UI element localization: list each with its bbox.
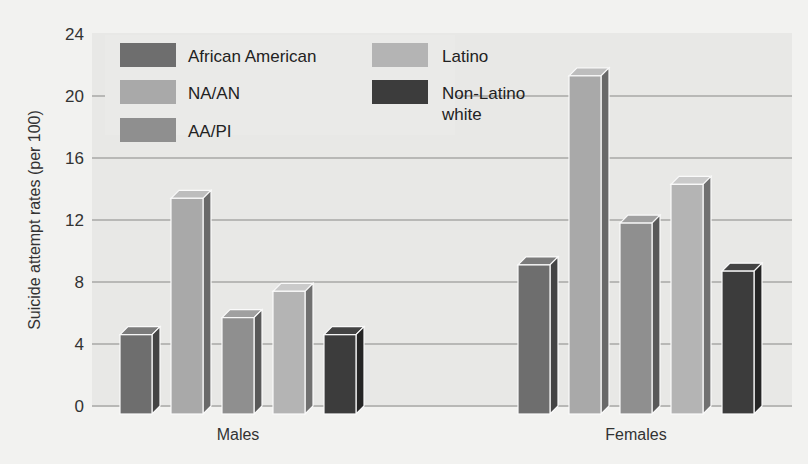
legend-swatch-african-american bbox=[120, 43, 176, 67]
y-tick-label: 4 bbox=[75, 335, 84, 354]
legend-label-latino: Latino bbox=[442, 47, 488, 66]
bar bbox=[722, 263, 762, 414]
legend-label-na-an: NA/AN bbox=[188, 84, 240, 103]
x-axis-categories: MalesFemales bbox=[217, 426, 667, 443]
bar bbox=[120, 327, 160, 414]
bar bbox=[273, 283, 313, 414]
legend-swatch-latino bbox=[372, 43, 428, 67]
bar bbox=[569, 68, 609, 414]
y-tick-label: 12 bbox=[65, 211, 84, 230]
x-category-label: Males bbox=[217, 426, 260, 443]
legend-label-non-latino-white-line2: white bbox=[441, 105, 482, 124]
y-tick-label: 0 bbox=[75, 397, 84, 416]
legend-label-non-latino-white-line1: Non-Latino bbox=[442, 84, 525, 103]
y-tick-label: 24 bbox=[65, 25, 84, 44]
bar bbox=[620, 215, 660, 414]
legend-label-african-american: African American bbox=[188, 47, 317, 66]
y-tick-label: 20 bbox=[65, 87, 84, 106]
x-category-label: Females bbox=[605, 426, 666, 443]
bar bbox=[671, 176, 711, 414]
bar bbox=[518, 257, 558, 414]
y-axis-label: Suicide attempt rates (per 100) bbox=[26, 110, 43, 330]
legend-swatch-aa-pi bbox=[120, 118, 176, 142]
legend-label-aa-pi: AA/PI bbox=[188, 122, 231, 141]
bar bbox=[171, 190, 211, 414]
bar-chart: 04812162024 Suicide attempt rates (per 1… bbox=[0, 0, 808, 464]
y-tick-label: 16 bbox=[65, 149, 84, 168]
bar bbox=[324, 327, 364, 414]
bar bbox=[222, 310, 262, 414]
y-axis-ticks: 04812162024 bbox=[65, 25, 84, 416]
y-tick-label: 8 bbox=[75, 273, 84, 292]
legend-swatch-non-latino-white bbox=[372, 80, 428, 104]
legend-swatch-na-an bbox=[120, 80, 176, 104]
